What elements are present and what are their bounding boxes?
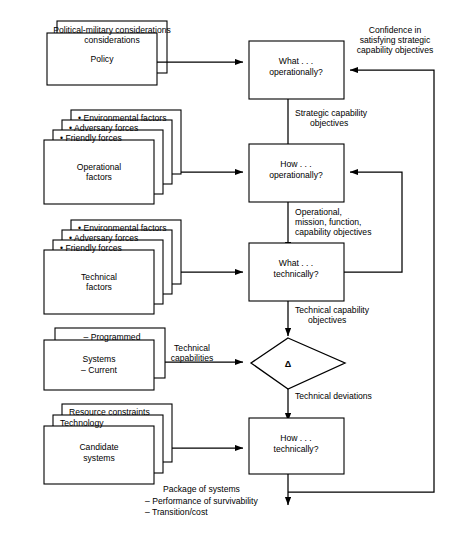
cand-layer-1-label: Technology <box>60 418 104 428</box>
tf-layer-1-label: • Adversary forces <box>69 233 138 243</box>
sys-front-label-1: Systems <box>83 354 116 364</box>
label-strategic-objectives-1: Strategic capability <box>295 108 368 118</box>
policy-layer-0-label: Political-military considerations <box>53 25 171 35</box>
label-confidence-1: Confidence in <box>369 25 422 35</box>
label-technical-capabilities-2: capabilities <box>171 353 214 363</box>
cand-front-label-2: systems <box>83 453 115 463</box>
label-technical-capabilities-1: Technical <box>174 343 210 353</box>
flowchart-svg: Political-military considerations consid… <box>0 0 467 540</box>
opf-front-label-1: Operational <box>77 162 122 172</box>
what-technically-line-2: technically? <box>274 269 319 279</box>
label-confidence-2: satisfying strategic <box>360 35 431 45</box>
delta-comparison[interactable]: Δ <box>251 338 345 389</box>
operational-factors-stack: • Environmental factors • Adversary forc… <box>44 110 181 204</box>
opf-layer-2-label: • Friendly forces <box>60 133 122 143</box>
systems-stack: – Programmed Systems – Current <box>44 328 165 390</box>
how-technically[interactable]: How . . . technically? <box>249 418 344 474</box>
how-technically-line-1: How . . . <box>280 433 312 443</box>
how-operationally-line-2: operationally? <box>269 170 323 180</box>
output-heading: Package of systems <box>163 484 240 494</box>
tf-layer-2-label: • Friendly forces <box>60 243 122 253</box>
tf-front-label-1: Technical <box>81 272 117 282</box>
label-technical-deviations: Technical deviations <box>295 391 372 401</box>
opf-layer-0-label: • Environmental factors <box>78 113 167 123</box>
what-operationally-line-1: What . . . <box>279 56 313 66</box>
sys-layer-0-label: – Programmed <box>84 332 141 342</box>
how-operationally[interactable]: How . . . operationally? <box>249 144 344 202</box>
how-operationally-line-1: How . . . <box>280 159 312 169</box>
tf-layer-0-label: • Environmental factors <box>78 223 167 233</box>
sys-front-label-2: – Current <box>81 365 117 375</box>
what-technically-line-1: What . . . <box>279 258 313 268</box>
policy-layer-0-label-2: considerations <box>84 35 139 45</box>
what-technically[interactable]: What . . . technically? <box>249 243 344 301</box>
label-tech-objectives-1: Technical capability <box>295 305 370 315</box>
how-technically-line-2: technically? <box>274 444 319 454</box>
tf-front-label-2: factors <box>86 282 112 292</box>
output-item-1: – Transition/cost <box>145 507 208 517</box>
cand-front-label-1: Candidate <box>79 442 118 452</box>
label-op-mission-2: mission, function, <box>295 217 361 227</box>
delta-symbol: Δ <box>285 359 292 369</box>
label-op-mission-1: Operational, <box>295 207 342 217</box>
what-operationally[interactable]: What . . . operationally? <box>249 41 344 99</box>
label-strategic-objectives-2: objectives <box>310 118 348 128</box>
candidate-systems-stack: Resource constraints Technology Candidat… <box>44 404 172 484</box>
opf-front-label-2: factors <box>86 172 112 182</box>
label-confidence-3: capability objectives <box>357 45 433 55</box>
opf-layer-1-label: • Adversary forces <box>69 123 138 133</box>
label-op-mission-3: capability objectives <box>295 227 371 237</box>
output-item-0: – Performance of survivability <box>145 496 258 506</box>
what-operationally-line-2: operationally? <box>269 67 323 77</box>
flowchart-canvas: Political-military considerations consid… <box>0 0 467 540</box>
policy-stack: Political-military considerations consid… <box>47 21 171 85</box>
delta-diamond[interactable] <box>251 338 345 389</box>
label-tech-objectives-2: objectives <box>308 315 346 325</box>
cand-layer-0-label: Resource constraints <box>69 407 150 417</box>
technical-factors-stack: • Environmental factors • Adversary forc… <box>44 220 181 314</box>
policy-front-label: Policy <box>91 54 115 64</box>
package-of-systems: Package of systems – Performance of surv… <box>145 484 258 517</box>
